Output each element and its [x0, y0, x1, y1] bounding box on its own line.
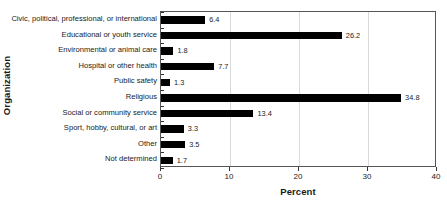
bar-row: 3.5: [161, 137, 437, 153]
bar-chart: Organization Civic, political, professio…: [0, 0, 447, 204]
bar-row: 26.2: [161, 28, 437, 44]
bar-row: 7.7: [161, 59, 437, 75]
bar-value-label: 13.4: [257, 108, 271, 119]
bar-row: 1.8: [161, 43, 437, 59]
x-axis-tick-label: 40: [432, 172, 441, 181]
bar: [161, 79, 170, 86]
category-label: Environmental or animal care: [58, 42, 157, 58]
bar: [161, 125, 184, 132]
x-axis-title: Percent: [160, 186, 436, 197]
x-axis-tick-label: 0: [158, 172, 162, 181]
x-axis-tick: [367, 167, 368, 171]
bar: [161, 16, 205, 23]
bar-value-label: 34.8: [405, 92, 419, 103]
x-axis: 010203040: [160, 167, 436, 183]
bar-value-label: 3.3: [188, 123, 198, 134]
y-axis-title-label: Organization: [2, 55, 13, 114]
category-label: Civic, political, professional, or inter…: [11, 11, 157, 27]
bar: [161, 32, 342, 39]
bar-row: 1.3: [161, 74, 437, 90]
bar: [161, 47, 173, 54]
bar: [161, 141, 185, 148]
bar-value-label: 7.7: [218, 61, 228, 72]
category-label: Religious: [126, 89, 157, 105]
x-axis-tick-label: 30: [363, 172, 372, 181]
bar-value-label: 1.8: [177, 45, 187, 56]
category-label: Other: [138, 136, 157, 152]
category-label: Educational or youth service: [62, 27, 157, 43]
category-label: Not determined: [105, 151, 157, 167]
bar-row: 1.7: [161, 152, 437, 168]
bar: [161, 94, 401, 101]
bar: [161, 110, 253, 117]
x-axis-tick: [160, 167, 161, 171]
bar-value-label: 26.2: [346, 30, 360, 41]
bar-row: 3.3: [161, 121, 437, 137]
bar: [161, 157, 173, 164]
category-label: Public safety: [114, 73, 157, 89]
category-label: Sport, hobby, cultural, or art: [64, 120, 157, 136]
bar-row: 6.4: [161, 12, 437, 28]
plot-area: 6.426.21.87.71.334.813.43.33.51.7: [160, 11, 436, 167]
x-axis-tick: [298, 167, 299, 171]
bar-value-label: 6.4: [209, 14, 219, 25]
category-label: Hospital or other health: [78, 58, 157, 74]
bar-row: 13.4: [161, 106, 437, 122]
bar-row: 34.8: [161, 90, 437, 106]
bar: [161, 63, 214, 70]
category-label: Social or community service: [62, 105, 157, 121]
bar-value-label: 3.5: [189, 139, 199, 150]
x-axis-tick-label: 20: [294, 172, 303, 181]
x-axis-tick-label: 10: [225, 172, 234, 181]
x-axis-tick: [436, 167, 437, 171]
category-axis-labels: Civic, political, professional, or inter…: [14, 11, 160, 167]
x-axis-tick: [229, 167, 230, 171]
bar-value-label: 1.7: [177, 155, 187, 166]
bar-value-label: 1.3: [174, 77, 184, 88]
